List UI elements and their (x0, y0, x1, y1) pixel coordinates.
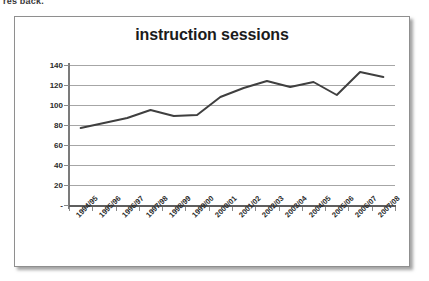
y-tick-mark (64, 105, 69, 106)
y-tick-label: 20 (33, 181, 63, 190)
x-tick-mark (92, 207, 93, 211)
y-tick-label: 40 (33, 161, 63, 170)
gridline (69, 185, 395, 186)
y-tick-mark (64, 165, 69, 166)
y-tick-label: 60 (33, 141, 63, 150)
y-tick-mark (64, 85, 69, 86)
y-tick-mark (64, 185, 69, 186)
gridline (69, 145, 395, 146)
x-tick-mark (185, 207, 186, 211)
chart-title: instruction sessions (15, 26, 409, 44)
x-tick-mark (348, 207, 349, 211)
x-tick-mark (232, 207, 233, 211)
x-tick-mark (255, 207, 256, 211)
gridline (69, 105, 395, 106)
x-tick-mark (116, 207, 117, 211)
plot-area (69, 65, 395, 205)
x-tick-mark (279, 207, 280, 211)
x-tick-mark (325, 207, 326, 211)
x-tick-mark (162, 207, 163, 211)
y-tick-label: 120 (33, 81, 63, 90)
x-tick-mark (372, 207, 373, 211)
page-text-fragment: res back. (3, 0, 44, 6)
y-tick-label: 100 (33, 101, 63, 110)
y-tick-mark (64, 65, 69, 66)
x-tick-mark (69, 207, 70, 211)
y-tick-label: 80 (33, 121, 63, 130)
y-tick-label: 140 (33, 61, 63, 70)
x-tick-mark (139, 207, 140, 211)
gridline (69, 65, 395, 66)
x-tick-mark (395, 207, 396, 211)
y-tick-mark (64, 205, 69, 206)
chart-frame: instruction sessions -20406080100120140 … (14, 16, 410, 267)
chart-plot-container: instruction sessions -20406080100120140 … (15, 17, 409, 266)
y-tick-mark (64, 125, 69, 126)
y-axis: -20406080100120140 (29, 17, 63, 268)
gridline (69, 165, 395, 166)
y-tick-mark (64, 145, 69, 146)
x-tick-mark (302, 207, 303, 211)
gridline (69, 85, 395, 86)
gridline (69, 125, 395, 126)
x-tick-mark (209, 207, 210, 211)
y-tick-label: - (33, 201, 63, 210)
